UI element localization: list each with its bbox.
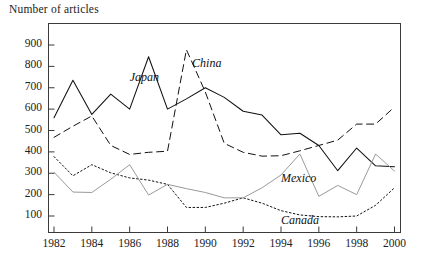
- series-label-canada: Canada: [281, 213, 319, 228]
- y-tick-label: 100: [8, 208, 42, 220]
- series-line-canada: [54, 157, 395, 217]
- x-tick-label: 1992: [223, 237, 263, 249]
- x-tick-label: 1982: [34, 237, 74, 249]
- x-tick-label: 1990: [185, 237, 225, 249]
- series-line-china: [54, 50, 395, 156]
- y-tick-label: 400: [8, 144, 42, 156]
- series-line-japan: [54, 57, 395, 171]
- y-tick-label: 200: [8, 187, 42, 199]
- y-tick-label: 500: [8, 123, 42, 135]
- y-tick-label: 600: [8, 101, 42, 113]
- x-tick-label: 1988: [148, 237, 188, 249]
- line-chart: Number of articles 100200300400500600700…: [0, 0, 421, 272]
- x-tick-label: 2000: [375, 237, 415, 249]
- x-tick-label: 1986: [110, 237, 150, 249]
- y-tick-label: 700: [8, 80, 42, 92]
- y-tick-label: 900: [8, 37, 42, 49]
- y-tick-label: 300: [8, 165, 42, 177]
- x-tick-label: 1998: [337, 237, 377, 249]
- series-label-china: China: [192, 56, 221, 71]
- x-tick-label: 1994: [261, 237, 301, 249]
- x-tick-label: 1996: [299, 237, 339, 249]
- x-tick-label: 1984: [72, 237, 112, 249]
- series-label-japan: Japan: [130, 70, 159, 85]
- series-label-mexico: Mexico: [281, 171, 316, 186]
- y-tick-label: 800: [8, 58, 42, 70]
- series-line-mexico: [54, 154, 395, 198]
- plot-area: [0, 0, 421, 272]
